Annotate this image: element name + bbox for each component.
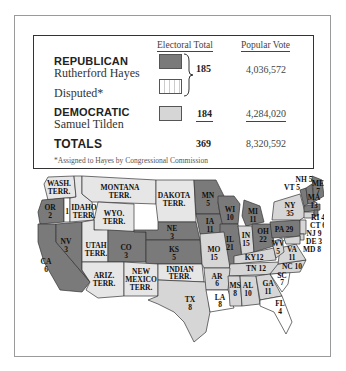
svg-text:TERR.: TERR. <box>48 187 71 196</box>
republican-popular-value: 4,036,572 <box>246 64 286 75</box>
svg-text:TERR.: TERR. <box>163 199 186 208</box>
svg-text:35: 35 <box>286 209 294 218</box>
svg-text:22: 22 <box>259 235 267 244</box>
footnote: *Assigned to Hayes by Congressional Comm… <box>54 156 208 165</box>
tilden-label: Samuel Tilden <box>54 118 124 131</box>
svg-text:5: 5 <box>172 253 176 262</box>
svg-text:10: 10 <box>244 289 252 298</box>
svg-text:8: 8 <box>218 300 222 309</box>
svg-text:TERR.: TERR. <box>169 272 192 281</box>
svg-text:2: 2 <box>48 211 52 220</box>
svg-text:10: 10 <box>226 213 234 222</box>
svg-text:TERR.: TERR. <box>130 283 153 292</box>
svg-text:3: 3 <box>124 251 128 260</box>
svg-text:4: 4 <box>278 307 282 316</box>
disputed-swatch <box>159 79 182 94</box>
total-electoral-value: 369 <box>196 138 211 149</box>
republican-swatch <box>159 54 182 69</box>
svg-text:TERR.: TERR. <box>85 249 108 258</box>
svg-text:VT 5: VT 5 <box>284 183 300 192</box>
hayes-label: Rutherford Hayes <box>54 67 140 80</box>
svg-text:11: 11 <box>288 253 295 262</box>
svg-text:NC 10: NC 10 <box>282 262 302 271</box>
svg-text:TERR.: TERR. <box>109 191 132 200</box>
total-popular-value: 8,320,592 <box>246 138 286 149</box>
svg-text:21: 21 <box>226 243 234 252</box>
svg-text:7: 7 <box>280 278 284 287</box>
svg-text:6: 6 <box>215 279 219 288</box>
svg-text:5: 5 <box>276 247 280 256</box>
combined-electoral-value: 185 <box>196 63 211 74</box>
svg-text:TERR.: TERR. <box>93 279 116 288</box>
svg-text:MD 8: MD 8 <box>303 245 321 254</box>
svg-text:5: 5 <box>206 199 210 208</box>
svg-text:6: 6 <box>44 265 48 274</box>
svg-text:3: 3 <box>64 245 68 254</box>
svg-text:8: 8 <box>233 289 237 298</box>
totals-label: TOTALS <box>54 138 102 150</box>
svg-text:KY12: KY12 <box>245 253 264 262</box>
state-de <box>300 234 304 240</box>
electoral-total-header: Electoral Total <box>157 40 213 52</box>
us-electoral-map: WASH. TERR. OR 2 1 IDAHO TERR. MONTANA T… <box>34 172 324 357</box>
svg-text:PA 29: PA 29 <box>275 225 294 234</box>
svg-text:11: 11 <box>249 215 256 224</box>
brace-icon <box>183 53 195 97</box>
legend-box: Electoral Total Popular Vote REPUBLICAN … <box>33 35 314 169</box>
svg-text:11: 11 <box>264 287 271 296</box>
svg-text:3: 3 <box>170 232 174 241</box>
svg-text:TN 12: TN 12 <box>246 264 266 273</box>
svg-text:13: 13 <box>310 201 318 210</box>
disputed-label: Disputed* <box>54 87 103 100</box>
svg-text:TERR.: TERR. <box>73 211 96 220</box>
svg-text:NH 5: NH 5 <box>296 175 313 184</box>
svg-text:15: 15 <box>210 253 218 262</box>
democratic-popular-value: 4,284,020 <box>246 108 286 122</box>
svg-text:8: 8 <box>188 303 192 312</box>
svg-text:TERR.: TERR. <box>103 217 126 226</box>
democratic-electoral-value: 184 <box>196 108 213 122</box>
popular-vote-header: Popular Vote <box>241 40 290 52</box>
svg-text:15: 15 <box>242 239 250 248</box>
svg-text:1: 1 <box>65 207 69 216</box>
democratic-swatch <box>159 106 182 121</box>
svg-text:11: 11 <box>206 225 213 234</box>
state-nj <box>300 220 306 234</box>
